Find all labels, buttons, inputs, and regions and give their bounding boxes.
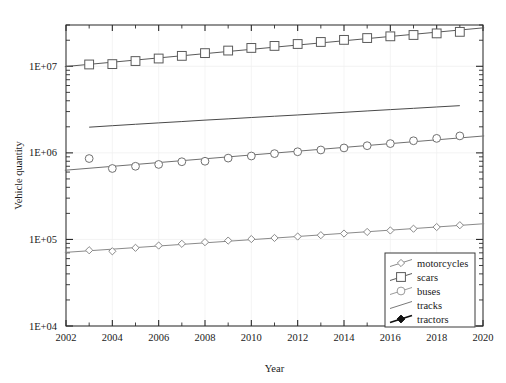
data-point-marker [131,57,140,66]
data-point-marker [432,29,441,38]
data-point-marker [340,35,349,44]
data-point-marker [108,60,117,69]
data-point-marker [317,146,325,154]
x-tick-label: 2004 [102,332,124,343]
y-tick-label: 1E+04 [29,321,58,332]
legend-marker-swatch [397,287,405,295]
vehicle-quantity-log-chart: 1E+041E+051E+061E+07 2002200420062008201… [0,0,506,383]
x-tick-label: 2006 [148,332,169,343]
x-tick-label: 2016 [380,332,401,343]
data-point-marker [455,27,464,36]
x-tick-label: 2002 [56,332,77,343]
data-point-marker [154,54,163,63]
data-point-marker [386,32,395,41]
y-tick-label: 1E+05 [29,234,57,245]
data-point-marker [247,152,255,160]
y-tick-label: 1E+07 [29,61,57,72]
data-point-marker [201,49,210,58]
x-tick-label: 2008 [195,332,216,343]
x-axis-title: Year [265,363,285,374]
data-point-marker [316,38,325,47]
data-point-marker [270,42,279,51]
chart-legend: motorcyclesscarsbusestrackstractors [385,253,475,327]
data-point-marker [293,40,302,49]
data-point-marker [132,162,140,170]
legend-label: tractors [417,314,449,325]
x-tick-label: 2018 [426,332,447,343]
data-point-marker [271,150,279,158]
legend-label: buses [417,286,440,297]
legend-label: tracks [417,300,442,311]
data-point-marker [224,46,233,55]
data-point-marker [409,31,418,40]
chart-container: 1E+041E+051E+061E+07 2002200420062008201… [0,0,506,383]
data-point-marker [433,134,441,142]
legend-label: scars [417,272,438,283]
x-tick-label: 2012 [287,332,308,343]
x-tick-label: 2020 [473,332,494,343]
data-point-marker [224,154,232,162]
data-point-marker [456,132,464,140]
data-point-marker [386,140,394,148]
data-point-marker [85,60,94,69]
data-point-marker [340,144,348,152]
data-point-marker [178,158,186,166]
data-point-marker [155,161,163,169]
data-point-marker [201,157,209,165]
x-tick-label: 2014 [334,332,356,343]
y-axis-title: Vehicle quantity [13,140,24,209]
data-point-marker [410,137,418,145]
data-point-marker [85,155,93,163]
x-tick-label: 2010 [241,332,262,343]
data-point-marker [294,148,302,156]
data-point-marker [177,51,186,60]
data-point-marker [247,44,256,53]
data-point-marker [363,142,371,150]
legend-label: motorcycles [417,258,468,269]
legend-marker-swatch [397,273,406,282]
data-point-marker [363,34,372,43]
data-point-marker [108,165,116,173]
y-tick-label: 1E+06 [29,147,57,158]
